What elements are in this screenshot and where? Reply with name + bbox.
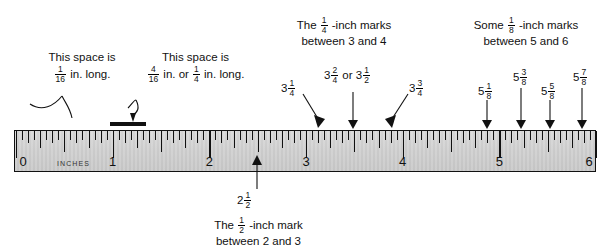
ruler-tick [294,131,295,143]
annotation-line-2: between 5 and 6 [452,34,600,49]
ruler-tick [76,131,77,143]
ruler-number-label: 0 [19,154,26,169]
fraction-one-eighth: 1 8 [508,16,515,34]
annotation-eighth-inch-marks: Some 1 8 -inch marks between 5 and 6 [452,16,600,49]
ruler-tick [451,131,452,152]
ruler-tick [143,131,144,140]
fraction-three-eighths: 38 [520,68,527,86]
ruler-tick [16,131,17,158]
ruler-number-label: 3 [302,154,309,169]
ruler-tick [58,131,59,140]
ruler-tick [167,131,168,140]
ruler-tick [366,131,367,143]
ruler-tick [391,131,392,143]
ruler-tick [131,131,132,140]
fraction-five-eighths: 58 [548,82,555,100]
ruler-tick [445,131,446,140]
fraction-one-sixteenth: 1 16 [55,65,66,83]
ruler-tick [457,131,458,140]
ruler-tick [246,131,247,143]
ruler-tick [179,131,180,140]
ruler-tick [524,131,525,148]
arrowhead-four-sixteenths [130,113,136,122]
fraction-two-quarters: 24 [331,66,338,84]
ruler-tick [560,131,561,143]
ruler-tick [596,131,597,158]
arrowhead-three-and-three-quarters [385,115,396,128]
ruler-tick [354,131,355,152]
fraction-three-quarters: 34 [416,79,423,97]
annotation-line-1: This space is [128,50,263,65]
ruler-tick [95,131,96,140]
ruler-tick [252,131,253,140]
fraction-one-half: 1 2 [238,216,245,234]
ruler-tick [234,131,235,148]
annotation-half-inch-mark: The 1 2 -inch mark between 2 and 3 [186,216,331,248]
annotation-four-sixteenths-space: This space is 4 16 in. or 1 4 in. long. [128,50,263,83]
fraction-four-sixteenths: 4 16 [148,65,159,83]
ruler-tick [46,131,47,140]
leader-three-and-quarter [303,94,320,122]
arrowhead-five-and-three-eighths [516,120,526,129]
ruler-tick [342,131,343,143]
ruler-tick [34,131,35,140]
ruler-tick [149,131,150,143]
ruler-tick [427,131,428,148]
ruler-tick [161,131,162,152]
ruler-tick [191,131,192,140]
ruler-tick [505,131,506,140]
value-label-five-and-five-eighths: 558 [541,82,556,100]
ruler-tick [421,131,422,140]
ruler-tick [52,131,53,143]
ruler-tick [240,131,241,140]
annotation-unit-text: in. long. [70,68,110,80]
ruler-tick [578,131,579,140]
fraction-one-eighth: 18 [485,82,492,100]
label-or-text: or [342,69,352,81]
ruler-tick [312,131,313,140]
annotation-mid-text: -inch mark [249,219,303,231]
annotation-lead-text: The [297,19,317,31]
ruler-tick [22,131,23,140]
arrowhead-three-and-half [348,120,358,129]
ruler-unit-word: INCHES [57,160,90,167]
ruler-tick [197,131,198,143]
ruler-tick [511,131,512,143]
fraction-one-half: 12 [363,66,370,84]
ruler-tick [372,131,373,140]
ruler-tick [566,131,567,140]
arrowhead-five-and-one-eighth [482,120,492,129]
annotation-line-2: 1 16 in. long. [22,65,142,83]
ruler-number-label: 4 [399,154,406,169]
ruler-number-label: 1 [109,154,116,169]
annotation-mid-text: -inch marks [332,19,391,31]
ruler-tick [119,131,120,140]
ruler-tick [282,131,283,148]
ruler-tick [433,131,434,140]
diagram-canvas: This space is 1 16 in. long. This space … [0,0,611,248]
ruler-tick [397,131,398,140]
span-bar-four-sixteenths [110,122,146,126]
ruler-tick [101,131,102,143]
ruler-tick [348,131,349,140]
ruler-tick [360,131,361,140]
ruler-tick [493,131,494,140]
ruler-tick [28,131,29,143]
ruler-tick [542,131,543,140]
annotation-line-1: This space is [22,50,142,65]
ruler-tick [89,131,90,148]
fraction-one-quarter: 14 [288,79,295,97]
ruler: 0123456 INCHES [14,130,596,172]
ruler-tick [264,131,265,140]
ruler-tick [324,131,325,140]
value-label-two-and-one-half: 212 [237,191,252,209]
ruler-tick [155,131,156,140]
ruler-tick [572,131,573,148]
ruler-number-label: 6 [585,154,592,169]
ruler-tick [276,131,277,140]
ruler-tick [107,131,108,140]
fraction-one-half: 12 [244,191,251,209]
value-label-three-and-one-half: 324 or 312 [324,66,371,84]
leader-one-sixteenth [62,96,72,118]
annotation-line-1: Some 1 8 -inch marks [452,16,600,34]
